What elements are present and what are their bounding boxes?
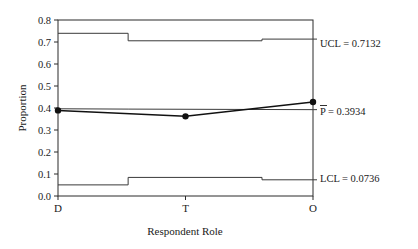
x-tick-label: D [54,202,62,214]
plot-frame [58,20,313,196]
y-axis-ticks: 0.80.70.60.50.40.30.20.10.0 [38,15,58,202]
x-axis-ticks: DTO [54,196,317,214]
y-tick-label: 0.1 [38,169,51,180]
y-tick-label: 0.6 [38,59,51,70]
lcl-line [58,177,313,184]
p-bar-symbol: P [320,106,326,117]
data-point [55,107,61,113]
center-line [58,109,313,110]
lcl-annotation: LCL = 0.0736 [320,173,380,184]
y-tick-label: 0.7 [38,37,51,48]
chart-canvas: 0.80.70.60.50.40.30.20.10.0 Proportion D… [0,0,418,249]
y-tick-label: 0.3 [38,125,51,136]
data-point [182,113,188,119]
p-control-chart: 0.80.70.60.50.40.30.20.10.0 Proportion D… [0,0,418,249]
y-tick-label: 0.4 [38,103,52,114]
ucl-line [58,33,313,40]
data-point [310,99,316,105]
y-tick-label: 0.0 [38,191,51,202]
center-annotation-value: = 0.3934 [328,106,366,117]
y-tick-label: 0.5 [38,81,51,92]
annotation-leader-lines [313,39,317,180]
x-tick-label: T [182,202,189,214]
y-axis-title: Proportion [16,84,28,132]
center-line-annotation: P = 0.3934 [320,106,366,118]
x-axis-title: Respondent Role [147,225,223,237]
ucl-annotation: UCL = 0.7132 [320,38,381,49]
y-tick-label: 0.2 [38,147,51,158]
y-tick-label: 0.8 [38,15,51,26]
x-tick-label: O [309,202,317,214]
